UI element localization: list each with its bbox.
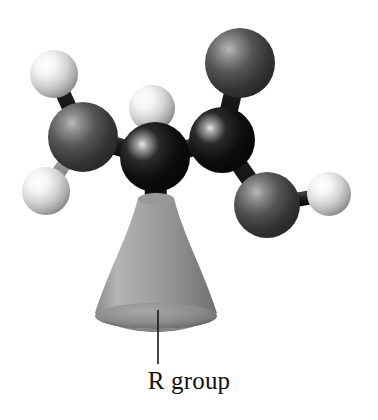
atom-carbon-right <box>189 107 255 173</box>
atom-group <box>22 28 351 238</box>
r-group-label: R group <box>0 366 378 396</box>
r-group-cone-base <box>95 303 217 329</box>
atom-hydrogen-far-right <box>307 172 351 216</box>
molecule-diagram <box>0 0 378 420</box>
atom-hydrogen-upper-left <box>30 50 78 98</box>
molecule-figure: R group <box>0 0 378 420</box>
atom-carbon-left <box>48 102 118 172</box>
atom-hydrogen-lower-left <box>22 167 70 215</box>
atom-carbon-lower-right <box>234 172 300 238</box>
atom-carbon-top-right <box>205 28 275 98</box>
r-group-shape <box>95 193 217 332</box>
r-group-cone-top <box>138 193 174 205</box>
atom-carbon-center <box>120 122 190 192</box>
